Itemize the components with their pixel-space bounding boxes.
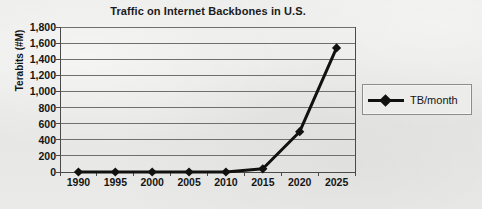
data-point-marker [332, 43, 341, 52]
chart-legend: TB/month [362, 84, 472, 115]
legend-entry-tb-month: TB/month [368, 90, 467, 110]
legend-entry-label: TB/month [410, 94, 458, 106]
diamond-marker-icon [368, 94, 404, 106]
line-chart: Traffic on Internet Backbones in U.S. Te… [0, 0, 482, 209]
data-point-marker [74, 167, 83, 176]
data-point-marker [148, 167, 157, 176]
data-point-marker [221, 167, 230, 176]
data-point-marker [184, 167, 193, 176]
data-point-marker [111, 167, 120, 176]
series-line-tb-month [78, 48, 336, 172]
